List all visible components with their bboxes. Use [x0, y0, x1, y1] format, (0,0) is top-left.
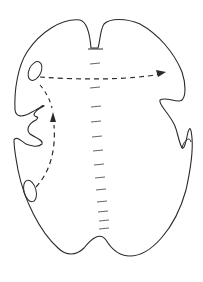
- horizontal-arrowhead-icon: [156, 70, 166, 77]
- upper-dashed-curve: [40, 85, 52, 108]
- vertical-dashed-arrow: [36, 125, 54, 187]
- upper-left-oval: [25, 59, 44, 82]
- lower-left-oval: [21, 179, 38, 203]
- horizontal-dashed-arrow: [40, 74, 160, 79]
- organ-diagram: [0, 0, 203, 282]
- midline-marks: [90, 63, 109, 229]
- diagram-canvas: [0, 0, 203, 282]
- vertical-arrowhead-icon: [50, 112, 56, 122]
- right-bump: [182, 139, 191, 148]
